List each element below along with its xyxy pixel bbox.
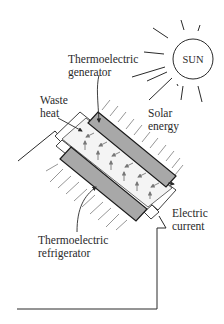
label-electric-current-line2: current	[172, 220, 208, 233]
label-generator-line1: Thermoelectric	[68, 53, 138, 66]
label-solar-energy-line2: energy	[148, 120, 179, 133]
label-generator: Thermoelectric generator	[68, 53, 138, 79]
diagram-graphic: SUN	[0, 0, 224, 324]
label-waste-heat: Waste heat	[40, 94, 68, 120]
label-generator-line2: generator	[68, 66, 138, 79]
sun-label: SUN	[182, 54, 203, 65]
label-solar-energy: Solar energy	[148, 107, 179, 133]
diagram-canvas: SUN	[0, 0, 224, 324]
label-waste-heat-line2: heat	[40, 107, 68, 120]
label-electric-current-line1: Electric	[172, 207, 208, 220]
label-refrigerator-line2: refrigerator	[38, 247, 108, 260]
label-refrigerator-line1: Thermoelectric	[38, 234, 108, 247]
label-solar-energy-line1: Solar	[148, 107, 179, 120]
label-electric-current: Electric current	[172, 207, 208, 233]
label-waste-heat-line1: Waste	[40, 94, 68, 107]
label-refrigerator: Thermoelectric refrigerator	[38, 234, 108, 260]
